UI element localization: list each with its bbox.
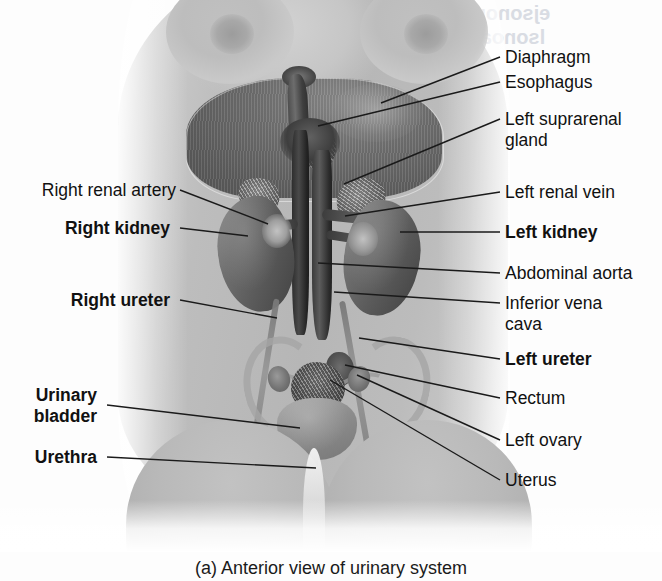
label-rectum: Rectum — [505, 388, 565, 409]
label-left-kidney: Left kidney — [505, 222, 597, 243]
label-right-renal-artery: Right renal artery — [0, 180, 176, 201]
urinary-system-figure: ejsonou eonnes lsonoanindesd — [0, 0, 662, 581]
great-vessel-hub — [280, 118, 340, 166]
label-right-ureter: Right ureter — [0, 290, 170, 311]
label-urinary-bladder: Urinary bladder — [0, 385, 97, 427]
label-urethra: Urethra — [0, 447, 97, 468]
label-abdominal-aorta: Abdominal aorta — [505, 263, 632, 284]
plate-bottom-fade — [0, 500, 662, 552]
right-renal-hilum — [262, 214, 292, 248]
label-left-ovary: Left ovary — [505, 430, 582, 451]
label-esophagus: Esophagus — [505, 72, 593, 93]
figure-caption: (a) Anterior view of urinary system — [0, 558, 662, 579]
label-right-kidney: Right kidney — [0, 218, 170, 239]
abdominal-aorta-organ — [292, 130, 309, 335]
areola-left — [210, 14, 254, 54]
label-left-renal-vein: Left renal vein — [505, 182, 615, 203]
label-uterus: Uterus — [505, 470, 557, 491]
inferior-vena-cava-organ — [312, 150, 332, 340]
label-left-ureter: Left ureter — [505, 349, 592, 370]
areola-right — [404, 14, 448, 54]
label-diaphragm: Diaphragm — [505, 47, 591, 68]
label-left-suprarenal-gland: Left suprarenal gland — [505, 109, 622, 151]
label-inferior-vena-cava: Inferior vena cava — [505, 293, 602, 335]
left-renal-hilum — [348, 222, 378, 256]
